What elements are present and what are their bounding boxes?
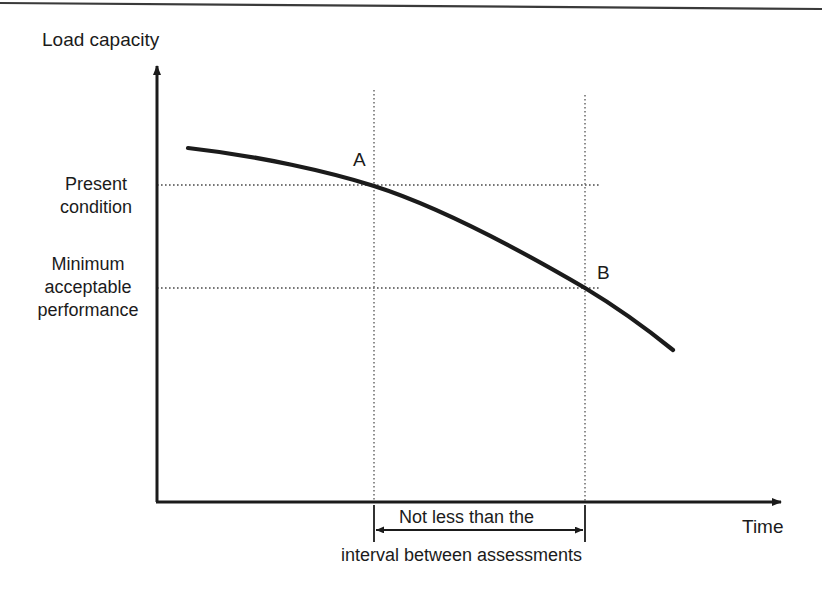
load-capacity-curve: [188, 148, 673, 350]
present-condition-label-line2: condition: [44, 196, 148, 219]
figure-container: Load capacity Time Present condition Min…: [0, 0, 822, 591]
minimum-acceptable-label-line2: acceptable: [28, 276, 148, 299]
interval-note-line1: Not less than the: [399, 506, 534, 529]
present-condition-label: Present condition: [44, 173, 148, 219]
point-b-label: B: [597, 261, 610, 285]
minimum-acceptable-label-line1: Minimum: [28, 253, 148, 276]
x-axis-label: Time: [742, 515, 784, 539]
page-edge-line: [0, 3, 822, 9]
point-a-label: A: [353, 148, 366, 172]
interval-note-line2: interval between assessments: [341, 544, 582, 567]
minimum-acceptable-label-line3: performance: [28, 299, 148, 322]
minimum-acceptable-performance-label: Minimum acceptable performance: [28, 253, 148, 322]
present-condition-label-line1: Present: [44, 173, 148, 196]
y-axis-label: Load capacity: [42, 28, 159, 52]
